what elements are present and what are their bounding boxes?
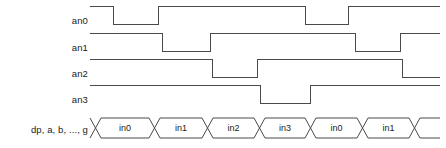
bus-value-label: in3	[279, 123, 291, 133]
signal-trace-an3	[90, 85, 440, 103]
waveform-an0	[90, 6, 440, 24]
waveform-an3	[90, 85, 440, 103]
bus-value-label: in1	[175, 123, 187, 133]
waveform-canvas: in0in1in2in3in0in1	[0, 0, 446, 148]
signal-trace-an1	[90, 33, 440, 51]
waveform-an1	[90, 33, 440, 51]
bus-value-label: in0	[330, 123, 342, 133]
waveform-data-bus: in0in1in2in3in0in1	[90, 118, 440, 138]
bus-value-label: in0	[119, 123, 131, 133]
timing-diagram: an0 an1 an2 an3 dp, a, b, ..., g in0in1i…	[0, 0, 446, 148]
signal-trace-an0	[90, 6, 440, 24]
bus-value-label: in1	[382, 123, 394, 133]
waveform-an2	[90, 59, 440, 77]
bus-value-label: in2	[227, 123, 239, 133]
signal-trace-an2	[90, 59, 440, 77]
